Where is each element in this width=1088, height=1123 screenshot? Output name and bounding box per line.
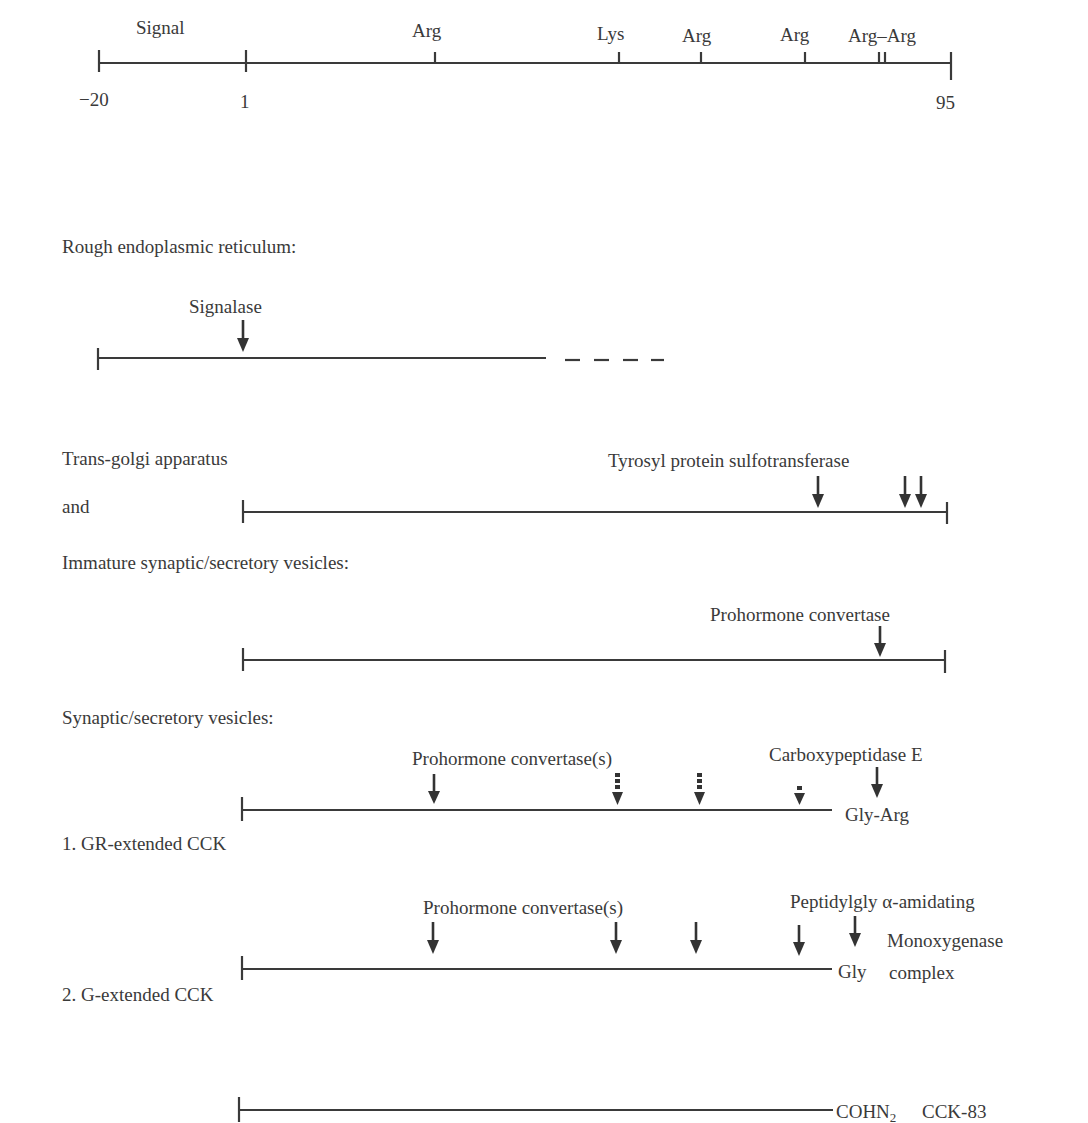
- carboxypeptidase-arrow-icon: [871, 767, 883, 798]
- residue-scale: [99, 50, 951, 80]
- immature-peptide-line: [243, 626, 945, 673]
- residue-label-arg: Arg: [682, 26, 711, 45]
- residue-label-arg-arg: Arg–Arg: [848, 26, 916, 45]
- convertase-arrow-icon: [427, 922, 439, 954]
- complex-label: complex: [889, 963, 954, 982]
- residue-label-arg: Arg: [780, 25, 809, 44]
- tick-label-start: −20: [79, 90, 109, 109]
- convertase-arrow-icon: [610, 922, 622, 954]
- golgi-stage-title: Trans-golgi apparatus: [62, 449, 228, 468]
- convertase-arrow-icon: [793, 925, 805, 956]
- gr-extended-peptide-line: [242, 767, 883, 821]
- signalase-label: Signalase: [189, 297, 262, 316]
- gr-terminus-label: Gly-Arg: [845, 805, 909, 824]
- tick-label-end: 95: [936, 93, 955, 112]
- amide-terminus-subscript: 2: [890, 1110, 897, 1123]
- signalase-arrow-icon: [237, 320, 249, 352]
- tick-label-one: 1: [240, 92, 250, 111]
- sulfation-arrow-icon: [915, 476, 927, 508]
- gr-extended-caption: 1. GR-extended CCK: [62, 834, 226, 853]
- amide-terminus-label: COHN2: [836, 1102, 896, 1123]
- sulfotransferase-label: Tyrosyl protein sulfotransferase: [608, 451, 849, 470]
- convertase-arrow-icon: [428, 774, 440, 804]
- cck83-peptide-line: [239, 1097, 833, 1122]
- convertase-arrow-icon: [874, 626, 886, 657]
- g-extended-caption: 2. G-extended CCK: [62, 985, 213, 1004]
- golgi-stage-and: and: [62, 497, 89, 516]
- g-convertase-label: Prohormone convertase(s): [423, 898, 623, 917]
- immature-vesicles-title: Immature synaptic/secretory vesicles:: [62, 553, 349, 572]
- amidating-enzyme-label: Peptidylgly α-amidating: [790, 892, 975, 911]
- gr-convertase-label: Prohormone convertase(s): [412, 749, 612, 768]
- sulfation-arrow-icon: [812, 476, 824, 508]
- vesicles-stage-title: Synaptic/secretory vesicles:: [62, 708, 274, 727]
- g-terminus-label: Gly: [838, 962, 867, 981]
- residue-label-arg: Arg: [412, 21, 441, 40]
- signal-peptide-label: Signal: [136, 18, 185, 37]
- rer-peptide-line: [98, 320, 664, 370]
- convertase-arrow-icon: [690, 922, 702, 954]
- residue-label-lys: Lys: [597, 24, 624, 43]
- golgi-peptide-line: [243, 476, 947, 524]
- dashed-convertase-arrow-icon: [694, 773, 705, 805]
- monoxygenase-label: Monoxygenase: [887, 931, 1003, 950]
- dashed-convertase-arrow-icon: [794, 786, 805, 805]
- g-extended-peptide-line: [242, 916, 861, 980]
- amidating-enzyme-arrow-icon: [849, 916, 861, 947]
- prohormone-convertase-label: Prohormone convertase: [710, 605, 890, 624]
- cck83-product-label: CCK-83: [922, 1102, 986, 1121]
- sulfation-arrow-icon: [899, 476, 911, 508]
- amide-terminus-main: COHN: [836, 1101, 890, 1122]
- dashed-convertase-arrow-icon: [612, 773, 623, 805]
- rer-stage-title: Rough endoplasmic reticulum:: [62, 237, 296, 256]
- carboxypeptidase-label: Carboxypeptidase E: [769, 745, 923, 764]
